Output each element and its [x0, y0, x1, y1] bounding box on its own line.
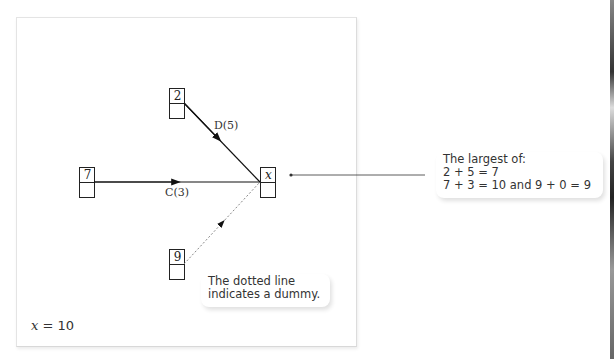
dummy-note: The dotted line indicates a dummy. [201, 274, 330, 307]
node-x-label: x [261, 168, 276, 183]
result-equation: x = 10 [31, 318, 74, 333]
edge-d5 [184, 103, 260, 182]
dummy-note-line-2: indicates a dummy. [208, 288, 320, 301]
largest-note: The largest of: 2 + 5 = 7 7 + 3 = 10 and… [436, 152, 603, 198]
node-9-label: 9 [170, 250, 185, 265]
edge-dummy-dotted [184, 182, 260, 264]
edge-d5-label: D(5) [214, 119, 238, 132]
result-value: 10 [58, 318, 75, 333]
node-7-label: 7 [80, 168, 95, 183]
result-equals: = [38, 318, 57, 333]
node-2-label: 2 [170, 89, 185, 104]
note-connector [289, 173, 425, 176]
edge-c3-label: C(3) [165, 186, 189, 199]
largest-note-line-3: 7 + 3 = 10 and 9 + 0 = 9 [443, 179, 591, 192]
page-binding-edge [610, 0, 614, 359]
